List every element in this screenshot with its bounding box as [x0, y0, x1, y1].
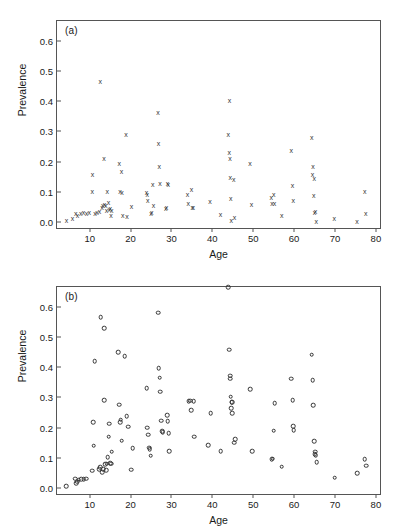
data-point: x [98, 208, 102, 215]
y-tick-mark [57, 70, 61, 71]
x-tick-mark [375, 494, 376, 498]
data-point: x [99, 78, 103, 85]
data-point: x [110, 206, 114, 213]
data-point [314, 453, 319, 458]
data-point: x [190, 186, 194, 193]
y-tick-mark [57, 40, 61, 41]
x-tick-mark [89, 228, 90, 232]
panel-a-x-axis-title: Age [56, 248, 381, 260]
x-tick-label: 30 [166, 233, 177, 244]
data-point: x [191, 203, 195, 210]
y-tick-label: 0.3 [40, 126, 53, 137]
data-point: x [117, 159, 121, 166]
data-point: x [157, 140, 161, 147]
data-point [104, 468, 109, 473]
data-point: x [74, 209, 78, 216]
data-point [191, 399, 196, 404]
panel-a-label: (a) [65, 25, 78, 36]
data-point [229, 406, 234, 411]
data-point [188, 398, 193, 403]
data-point: x [103, 201, 107, 208]
panel-a-y-axis-title: Prevalence [16, 30, 28, 150]
y-tick-label: 0.2 [40, 156, 53, 167]
data-point: x [146, 191, 150, 198]
data-point [208, 411, 213, 416]
x-tick-mark [171, 228, 172, 232]
data-point: x [229, 195, 233, 202]
data-point [166, 419, 171, 424]
data-point: x [151, 180, 155, 187]
data-point [123, 354, 128, 359]
data-point [159, 419, 164, 424]
data-point [271, 456, 276, 461]
data-point: x [290, 146, 294, 153]
data-point: x [313, 208, 317, 215]
y-tick-label: 0.1 [40, 186, 53, 197]
data-point [364, 464, 369, 469]
data-point: x [118, 188, 122, 195]
data-point: x [355, 218, 359, 225]
x-tick-label: 70 [330, 233, 341, 244]
data-point [105, 461, 110, 466]
data-point [102, 326, 107, 331]
data-point: x [272, 191, 276, 198]
y-tick-label: 0.0 [40, 216, 53, 227]
data-point [290, 398, 295, 403]
y-tick-label: 0.2 [40, 422, 53, 433]
data-point [158, 390, 163, 395]
data-point [148, 447, 153, 452]
data-point: x [164, 205, 168, 212]
panel-b: Prevalence (b) 0.00.10.20.30.40.50.61020… [0, 266, 405, 532]
data-point [64, 484, 69, 489]
data-point [124, 414, 129, 419]
x-tick-label: 70 [330, 499, 341, 510]
data-point: x [228, 96, 232, 103]
x-tick-mark [375, 228, 376, 232]
data-point: x [312, 174, 316, 181]
y-tick-mark [57, 336, 61, 337]
y-tick-mark [57, 131, 61, 132]
data-point [109, 449, 114, 454]
data-point: x [109, 212, 113, 219]
y-tick-label: 0.6 [40, 301, 53, 312]
data-point: x [280, 212, 284, 219]
data-point: x [82, 209, 86, 216]
data-point [250, 449, 255, 454]
data-point [271, 428, 276, 433]
data-point [272, 401, 277, 406]
data-point: x [124, 131, 128, 138]
data-point [248, 387, 253, 392]
data-point: x [191, 204, 195, 211]
data-point [91, 420, 96, 425]
x-tick-label: 80 [371, 499, 382, 510]
data-point [291, 428, 296, 433]
panel-b-y-axis-title: Prevalence [16, 296, 28, 416]
data-point [98, 465, 103, 470]
data-point [157, 375, 162, 380]
data-point: x [104, 202, 108, 209]
data-point [312, 452, 317, 457]
x-tick-mark [171, 494, 172, 498]
y-tick-mark [57, 457, 61, 458]
figure-container: Prevalence (a) 0.00.10.20.30.40.50.61020… [0, 0, 405, 532]
y-tick-mark [57, 306, 61, 307]
data-point: x [120, 188, 124, 195]
data-point: x [130, 202, 134, 209]
data-point: x [186, 191, 190, 198]
data-point [126, 424, 131, 429]
y-tick-mark [57, 221, 61, 222]
data-point [189, 408, 194, 413]
x-tick-mark [294, 494, 295, 498]
data-point [105, 455, 110, 460]
data-point: x [71, 215, 75, 222]
data-point: x [149, 209, 153, 216]
data-point: x [93, 209, 97, 216]
data-point [311, 403, 316, 408]
data-point [117, 403, 122, 408]
x-tick-label: 40 [207, 499, 218, 510]
data-point [310, 378, 315, 383]
data-point [232, 440, 237, 445]
data-point: x [158, 179, 162, 186]
y-tick-label: 0.5 [40, 65, 53, 76]
data-point [145, 426, 150, 431]
